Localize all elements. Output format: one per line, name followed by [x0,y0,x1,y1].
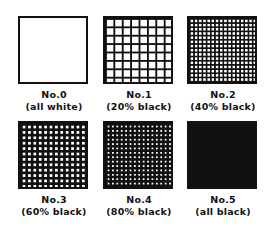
swatch-number: No.3 [18,194,90,205]
swatch-40-black [187,16,257,84]
swatch-number: No.4 [103,194,175,205]
swatch-description: (all white) [18,101,90,112]
swatch-description: (20% black) [103,101,175,112]
swatch-number: No.1 [103,89,175,100]
swatch-number: No.2 [187,89,259,100]
swatch-80-black [103,121,173,189]
swatch-all-black [187,121,257,189]
swatch-description: (60% black) [18,206,90,217]
swatch-description: (40% black) [187,101,259,112]
swatch-description: (80% black) [103,206,175,217]
swatch-number: No.5 [187,194,259,205]
swatch-20-black [103,16,173,84]
swatch-number: No.0 [18,89,90,100]
swatch-60-black [18,121,88,189]
swatch-all-white [18,16,88,84]
swatch-description: (all black) [187,206,259,217]
